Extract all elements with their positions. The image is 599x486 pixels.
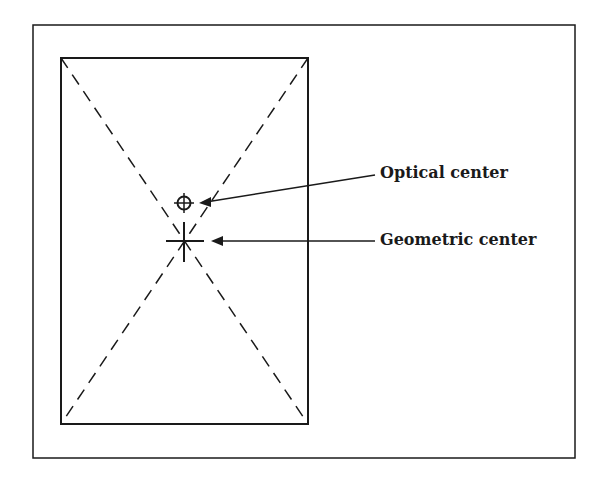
optical-center-label: Optical center: [380, 163, 508, 182]
optical-center-icon: [174, 193, 194, 213]
geometric-arrow: [211, 236, 375, 246]
geometric-center-icon: [166, 222, 204, 262]
geometric-center-label: Geometric center: [380, 230, 536, 249]
